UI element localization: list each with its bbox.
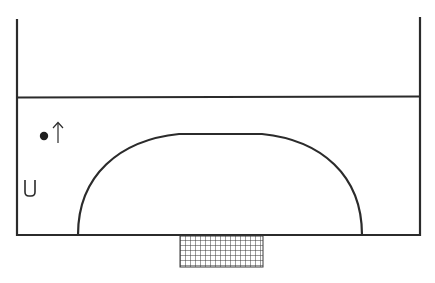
cone-marker-icon xyxy=(25,180,35,196)
up-arrow-icon xyxy=(53,123,63,144)
goal-area-arc xyxy=(78,134,362,235)
court-diagram xyxy=(0,0,435,283)
player-dot-icon xyxy=(40,132,48,140)
goal-net xyxy=(180,236,263,267)
halfway-line xyxy=(17,97,420,98)
